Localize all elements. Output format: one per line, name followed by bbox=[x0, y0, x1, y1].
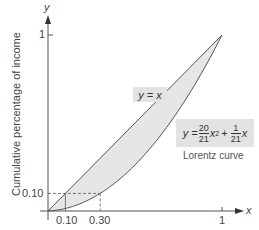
y-axis-arrow-icon bbox=[45, 15, 51, 24]
eq-y: y = bbox=[183, 127, 198, 139]
x-tick-label-010: 0.10 bbox=[56, 214, 77, 226]
y-tick-label-1: 1 bbox=[39, 28, 45, 40]
eq-frac2: 1 21 bbox=[231, 123, 241, 144]
y-axis-symbol: y bbox=[44, 1, 50, 13]
y-axis-label: Cumulative percentage of income bbox=[10, 36, 22, 196]
lorentz-equation-label: y = 20 21 x2 + 1 21 x bbox=[176, 119, 254, 147]
eq-den2: 21 bbox=[231, 134, 241, 144]
eq-frac1: 20 21 bbox=[199, 123, 209, 144]
x-tick-label-030: 0.30 bbox=[89, 214, 110, 226]
eq-num1: 20 bbox=[199, 123, 209, 133]
eq-x: x bbox=[242, 127, 248, 139]
x-axis-arrow-icon bbox=[235, 208, 244, 214]
lorentz-curve-name: Lorentz curve bbox=[183, 150, 244, 161]
eq-plus: + bbox=[221, 127, 227, 139]
equality-line-label: y = x bbox=[133, 87, 167, 102]
y-tick-label-010: 0.10 bbox=[22, 187, 43, 199]
x-axis-symbol: x bbox=[246, 204, 252, 216]
eq-den1: 21 bbox=[199, 134, 209, 144]
x-tick-label-1: 1 bbox=[219, 214, 225, 226]
eq-num2: 1 bbox=[233, 123, 238, 133]
eq-sup: 2 bbox=[215, 130, 219, 137]
